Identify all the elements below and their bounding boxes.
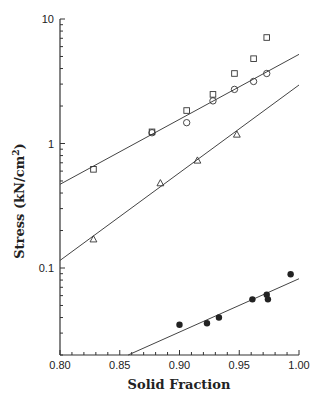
triangle-marker bbox=[157, 180, 164, 186]
x-tick-label: 0.80 bbox=[49, 359, 70, 371]
square-marker bbox=[264, 35, 270, 41]
y-tick-label: 1 bbox=[48, 138, 54, 150]
x-tick-label: 0.95 bbox=[229, 359, 250, 371]
square-marker bbox=[184, 108, 190, 114]
filled-circle-marker bbox=[176, 322, 182, 328]
series-triangles bbox=[90, 131, 240, 242]
fit-lines bbox=[60, 54, 299, 355]
square-marker bbox=[232, 71, 238, 77]
x-tick-label: 0.85 bbox=[109, 359, 130, 371]
filled-circle-marker bbox=[265, 296, 271, 302]
y-axis-title-close: ) bbox=[12, 143, 27, 149]
x-axis-title: Solid Fraction bbox=[128, 377, 231, 392]
x-tick-label: 0.90 bbox=[169, 359, 190, 371]
y-axis-title: Stress (kN/cm2) bbox=[11, 143, 27, 259]
x-tick-label: 1.00 bbox=[288, 359, 309, 371]
filled-circle-marker bbox=[249, 296, 255, 302]
series-squares bbox=[91, 35, 270, 172]
y-axis-title-main: Stress (kN/cm bbox=[12, 155, 27, 258]
stress-vs-solid-fraction-chart: 0.800.850.900.951.00 0.1110 Solid Fracti… bbox=[0, 0, 323, 399]
y-tick-label: 10 bbox=[42, 13, 54, 25]
filled-circle-marker bbox=[216, 314, 222, 320]
filled-circle-marker bbox=[204, 320, 210, 326]
filled-circle-marker bbox=[287, 271, 293, 277]
x-axis: 0.800.850.900.951.00 bbox=[49, 350, 309, 371]
series-filled-circles bbox=[176, 271, 294, 328]
y-tick-label: 0.1 bbox=[39, 262, 54, 274]
circle-marker bbox=[183, 119, 189, 125]
triangle-marker bbox=[90, 236, 97, 242]
square-marker bbox=[251, 56, 257, 62]
square-marker bbox=[210, 92, 216, 98]
fit-lower-line bbox=[128, 279, 299, 355]
fit-middle-line bbox=[60, 85, 299, 260]
data-markers bbox=[90, 35, 294, 328]
